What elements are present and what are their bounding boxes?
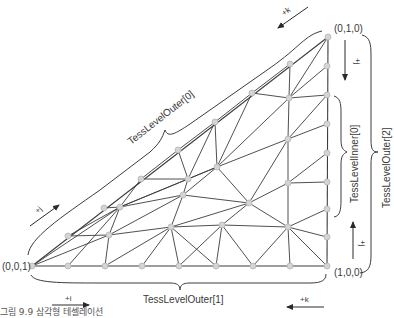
inner0-label: TessLevelInner[0] <box>349 124 360 203</box>
brace-outer1 <box>31 274 326 290</box>
corner-top-label: (0,1,0) <box>334 23 363 34</box>
arrow-bottom-i-label: +i <box>65 294 72 303</box>
corner-left-label: (0,0,1) <box>2 261 31 272</box>
outer0-label: TessLevelOuter[0] <box>125 88 195 146</box>
brace-inner0 <box>334 96 347 217</box>
arrow-left-j-label: +j <box>33 204 44 215</box>
corner-right-label: (1,0,0) <box>334 267 363 278</box>
outer2-label: TessLevelOuter[2] <box>381 127 392 208</box>
arrow-right-bottom-j-label: +j <box>358 240 367 247</box>
tessellation-diagram: +k +j +i +k +j +j (0,1,0) (0,0,1) (1,0,0… <box>0 0 394 318</box>
brace-outer2 <box>360 35 378 273</box>
outer1-label: TessLevelOuter[1] <box>143 294 224 305</box>
arrow-bottom-k-label: +k <box>300 295 310 304</box>
figure-caption: 그림 9.9 삼각형 테셀레이션 <box>0 305 103 318</box>
arrow-top-k-label: +k <box>280 5 293 18</box>
arrow-right-top-j-label: +j <box>353 58 362 65</box>
